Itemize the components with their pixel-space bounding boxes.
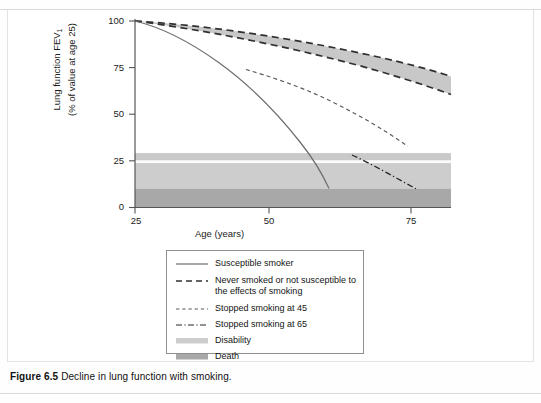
figure-caption-number: Figure 6.5 [10,371,58,382]
background-bands [135,153,451,207]
legend-label-disability: Disability [215,335,251,346]
legend-label-stopped-at-65: Stopped smoking at 65 [215,319,307,330]
dashed-line-key [175,275,209,286]
y-tick-label-75: 75 [100,62,124,73]
figure-caption: Figure 6.5 Decline in lung function with… [10,371,232,382]
band-disability [135,163,451,189]
x-axis-ticks [135,208,411,214]
x-tick-label-75: 75 [403,215,419,226]
disability-swatch [175,335,209,346]
band-death [135,189,451,208]
dash-dot-line-key [175,319,209,330]
legend-item-susceptible-smoker: Susceptible smoker [175,258,294,269]
death-swatch [175,351,209,362]
legend-item-never-smoked: Never smoked or not susceptible to the e… [175,275,356,297]
band-white-separator [135,161,451,164]
legend-label-susceptible-smoker: Susceptible smoker [215,258,294,269]
legend-label-never-smoked: Never smoked or not susceptible to the e… [215,275,356,297]
x-tick-label-25: 25 [128,215,144,226]
band-disability-upper [135,153,451,160]
y-tick-label-0: 0 [100,201,124,212]
solid-line-key [175,258,209,269]
y-axis-label-subscript: 1 [56,28,63,32]
legend-label-death: Death [215,351,239,362]
y-tick-label-100: 100 [100,15,124,26]
legend-item-disability: Disability [175,335,251,346]
legend-label-stopped-at-45: Stopped smoking at 45 [215,303,307,314]
legend-item-stopped-at-65: Stopped smoking at 65 [175,319,307,330]
x-axis-label: Age (years) [195,228,244,239]
never-smoked-lower-curve [135,21,451,95]
y-tick-label-25: 25 [100,155,124,166]
never-smoked-band-fill [135,21,451,95]
y-axis-ticks [129,21,135,208]
y-tick-label-50: 50 [100,108,124,119]
fine-dashed-line-key [175,303,209,314]
chart-legend: Susceptible smoker Never smoked or not s… [166,250,364,354]
legend-item-death: Death [175,351,239,362]
y-axis-label-line2: (% of value at age 25) [66,0,78,140]
legend-item-stopped-at-45: Stopped smoking at 45 [175,303,307,314]
y-axis-label: Lung function FEV1 (% of value at age 25… [51,0,78,140]
figure-page: 100 75 50 25 0 25 50 75 Lung function FE… [0,0,541,403]
y-axis-label-line1: Lung function FEV [51,32,62,110]
figure-caption-text: Decline in lung function with smoking. [61,371,232,382]
x-tick-label-50: 50 [261,215,277,226]
